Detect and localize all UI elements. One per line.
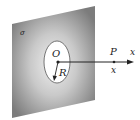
point-p — [113, 61, 116, 64]
radius-label: R — [58, 67, 67, 78]
axis-x-label: x — [130, 47, 135, 57]
diagram-canvas: σ O R P x x — [0, 0, 140, 120]
x-axis-arrowhead — [127, 60, 134, 65]
origin-label: O — [52, 48, 60, 59]
point-p-label: P — [109, 46, 117, 57]
sigma-label: σ — [20, 29, 25, 37]
distance-x-label: x — [111, 65, 116, 75]
